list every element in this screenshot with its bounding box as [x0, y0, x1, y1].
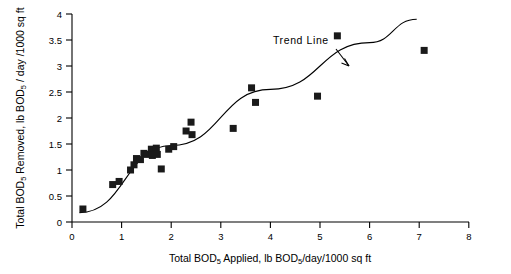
y-tick-label-3-5: 3.5: [49, 35, 62, 46]
x-tick-label-3: 3: [218, 231, 223, 242]
x-tick-label-4: 4: [268, 231, 273, 242]
y-tick-label-1-5: 1.5: [49, 139, 62, 150]
bod5-scatter-plot: 0 0.5 1 1.5 2 2.5 3 3.5 4 0 1 2 3 4: [0, 0, 511, 274]
y-tick-label-2: 2: [57, 113, 62, 124]
data-point: [314, 93, 321, 100]
data-point: [137, 156, 144, 163]
x-tick-label-8: 8: [466, 231, 471, 242]
data-point: [116, 178, 123, 185]
data-point: [154, 151, 161, 158]
y-axis-title: Total BOD5 Removed, lb BOD5 / day /1000 …: [14, 7, 28, 228]
x-tick-label-0: 0: [69, 231, 74, 242]
y-axis: 0 0.5 1 1.5 2 2.5 3 3.5 4: [49, 9, 72, 228]
y-tick-label-4: 4: [57, 9, 62, 20]
chart-container: 0 0.5 1 1.5 2 2.5 3 3.5 4 0 1 2 3 4: [0, 0, 511, 274]
x-axis-title: Total BOD5 Applied, lb BOD5/day/1000 sq …: [169, 252, 371, 266]
x-axis: 0 1 2 3 4 5 6 7 8: [69, 222, 471, 242]
data-point: [109, 181, 116, 188]
data-point: [158, 165, 165, 172]
data-point: [131, 161, 138, 168]
y-tick-label-1: 1: [57, 165, 62, 176]
trend-line: [79, 19, 416, 212]
x-tick-label-1: 1: [119, 231, 124, 242]
data-point: [188, 119, 195, 126]
data-point: [248, 84, 255, 91]
data-point: [334, 32, 341, 39]
data-point: [189, 131, 196, 138]
data-point: [153, 145, 160, 152]
x-tick-label-5: 5: [317, 231, 322, 242]
x-tick-label-2: 2: [169, 231, 174, 242]
data-point: [252, 99, 259, 106]
trend-line-label: Trend Line: [273, 34, 329, 46]
x-tick-label-6: 6: [367, 231, 372, 242]
data-point-group: [79, 32, 427, 212]
data-point: [79, 206, 86, 213]
y-tick-label-0: 0: [57, 217, 62, 228]
x-tick-label-7: 7: [417, 231, 422, 242]
y-tick-label-0-5: 0.5: [49, 191, 62, 202]
data-point: [170, 143, 177, 150]
y-tick-label-3: 3: [57, 61, 62, 72]
data-point: [421, 47, 428, 54]
data-point: [230, 125, 237, 132]
y-tick-label-2-5: 2.5: [49, 87, 62, 98]
